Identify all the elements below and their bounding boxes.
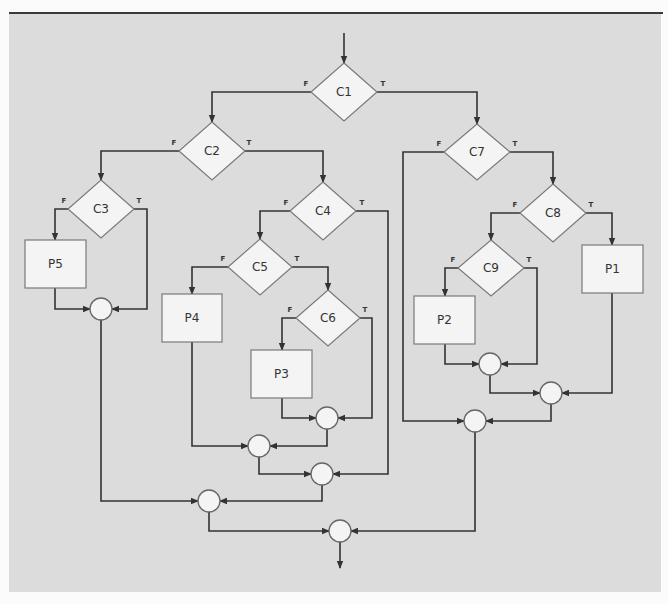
process-p5: P5 xyxy=(25,240,86,288)
process-p4: P4 xyxy=(162,294,222,342)
junction-j9 xyxy=(329,520,351,542)
false-branch-label: F xyxy=(304,80,309,88)
true-branch-label: T xyxy=(363,306,368,314)
true-branch-label: T xyxy=(137,197,142,205)
decision-label: C7 xyxy=(469,145,485,159)
process-p1: P1 xyxy=(582,245,643,293)
process-label: P2 xyxy=(437,313,452,327)
false-branch-label: F xyxy=(172,139,177,147)
false-branch-label: F xyxy=(284,199,289,207)
decision-label: C3 xyxy=(93,202,109,216)
decision-label: C8 xyxy=(545,206,561,220)
junction-j1 xyxy=(90,298,112,320)
junction-j5 xyxy=(198,490,220,512)
junction-j3 xyxy=(248,435,270,457)
true-branch-label: T xyxy=(381,80,386,88)
true-branch-label: T xyxy=(295,255,300,263)
false-branch-label: F xyxy=(62,197,67,205)
process-label: P3 xyxy=(274,367,289,381)
process-p3: P3 xyxy=(251,350,312,398)
true-branch-label: T xyxy=(513,140,518,148)
false-branch-label: F xyxy=(451,256,456,264)
junction-j8 xyxy=(464,410,486,432)
flowchart-canvas: C1C2C3C4C5C6C7C8C9 P1P2P3P4P5 FTFTFTFTFT… xyxy=(0,0,668,604)
decision-label: C5 xyxy=(252,260,268,274)
process-p2: P2 xyxy=(414,296,475,344)
false-branch-label: F xyxy=(513,201,518,209)
decision-label: C4 xyxy=(315,204,331,218)
false-branch-label: F xyxy=(221,255,226,263)
false-branch-label: F xyxy=(288,306,293,314)
false-branch-label: F xyxy=(437,140,442,148)
decision-label: C6 xyxy=(320,311,336,325)
process-label: P5 xyxy=(48,257,63,271)
true-branch-label: T xyxy=(360,199,365,207)
decision-label: C2 xyxy=(204,144,220,158)
junction-j6 xyxy=(479,353,501,375)
true-branch-label: T xyxy=(527,256,532,264)
junction-j4 xyxy=(311,463,333,485)
true-branch-label: T xyxy=(247,139,252,147)
true-branch-label: T xyxy=(589,201,594,209)
decision-label: C9 xyxy=(483,261,499,275)
junction-j2 xyxy=(316,407,338,429)
junction-j7 xyxy=(540,382,562,404)
decision-label: C1 xyxy=(336,85,352,99)
process-label: P1 xyxy=(605,262,620,276)
process-label: P4 xyxy=(185,311,200,325)
